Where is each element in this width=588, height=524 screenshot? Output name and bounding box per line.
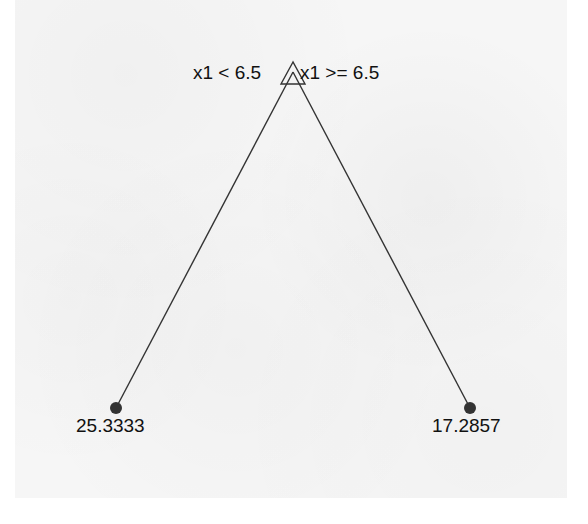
split-condition-right: x1 >= 6.5 <box>300 63 379 82</box>
tree-diagram <box>0 0 588 524</box>
leaf-node-right-dot-icon <box>464 402 476 414</box>
right-branch-line <box>293 72 470 408</box>
leaf-value-right: 17.2857 <box>432 416 501 435</box>
left-branch-line <box>116 72 293 408</box>
split-condition-left: x1 < 6.5 <box>193 63 261 82</box>
leaf-value-left: 25.3333 <box>76 416 145 435</box>
leaf-node-left-dot-icon <box>110 402 122 414</box>
